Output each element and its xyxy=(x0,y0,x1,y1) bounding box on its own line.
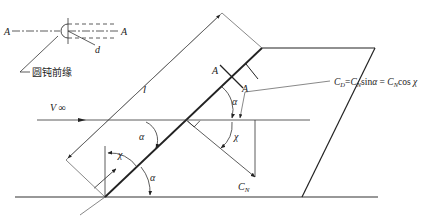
inset-section-view: A A d 圆钝前缘 xyxy=(3,18,128,78)
section-label-a1: A xyxy=(211,65,219,76)
trailing-edge xyxy=(302,48,375,197)
inset-section-label-right: A xyxy=(120,26,128,37)
leading-edge xyxy=(105,48,262,197)
diameter-label: d xyxy=(95,44,101,55)
freestream-label: V ∞ xyxy=(50,102,66,113)
formula-text: CD=CNsinα = CNcos χ xyxy=(334,77,418,88)
chi-lower-label: χ xyxy=(117,149,123,160)
force-vectors: α χ α χ α CN xyxy=(91,87,255,197)
leading-edge-caption: 圆钝前缘 xyxy=(32,66,72,78)
normal-force-label: CN xyxy=(238,181,250,194)
alpha-upper-label: α xyxy=(232,96,238,107)
alpha-mid-label: α xyxy=(139,131,145,142)
blunt-nose-arc xyxy=(61,24,68,38)
drag-formula: CD=CNsinα = CNcos χ xyxy=(240,77,418,118)
length-label: l xyxy=(143,83,146,95)
inset-section-label-left: A xyxy=(3,26,11,37)
alpha-lower-label: α xyxy=(150,172,156,183)
chi-right-label: χ xyxy=(233,131,239,142)
freestream: V ∞ xyxy=(37,102,310,122)
swept-wing-diagram: A A d 圆钝前缘 l V ∞ A A xyxy=(0,0,439,216)
